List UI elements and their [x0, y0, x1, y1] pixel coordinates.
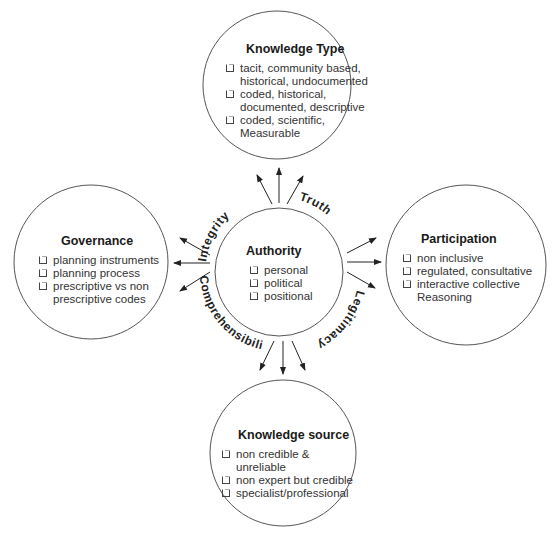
checkbox-icon: [39, 269, 47, 277]
checkbox-icon: [250, 279, 258, 287]
checkbox-icon: [222, 450, 230, 458]
node-title: Knowledge Type: [226, 42, 376, 56]
checkbox-icon: [222, 489, 230, 497]
node-list: planning instruments planning process pr…: [39, 254, 167, 306]
arrows-to-participation: [347, 238, 381, 288]
arrows-to-knowledge-source: [260, 341, 305, 374]
node-knowledge-source: Knowledge source non credible & unreliab…: [222, 428, 362, 500]
node-list: non credible & unreliable non expert but…: [222, 448, 362, 500]
list-item: non inclusive: [403, 252, 543, 265]
list-item: non expert but credible: [222, 474, 362, 487]
list-item: personal: [250, 264, 326, 277]
list-item: non credible & unreliable: [222, 448, 362, 474]
node-list: non inclusive regulated, consultative in…: [403, 252, 543, 304]
list-item: coded, scientific, Measurable: [226, 114, 376, 140]
list-item: coded, historical, documented, descripti…: [226, 88, 376, 114]
checkbox-icon: [226, 90, 234, 98]
node-knowledge-type: Knowledge Type tacit, community based, h…: [226, 42, 376, 140]
checkbox-icon: [403, 254, 411, 262]
node-governance: Governance planning instruments planning…: [39, 234, 167, 306]
checkbox-icon: [39, 282, 47, 290]
node-list: tacit, community based, historical, undo…: [226, 62, 376, 140]
checkbox-icon: [226, 116, 234, 124]
list-item: specialist/professional: [222, 487, 362, 500]
list-item: tacit, community based, historical, undo…: [226, 62, 376, 88]
arrows-to-knowledge-type: [257, 168, 303, 204]
ring-label-truth: Truth: [298, 189, 335, 217]
checkbox-icon: [226, 64, 234, 72]
checkbox-icon: [222, 476, 230, 484]
checkbox-icon: [250, 266, 258, 274]
list-item: political: [250, 277, 326, 290]
node-title: Governance: [39, 234, 167, 248]
node-title: Participation: [403, 232, 543, 246]
checkbox-icon: [39, 256, 47, 264]
list-item: planning instruments: [39, 254, 167, 267]
node-title: Knowledge source: [222, 428, 362, 442]
checkbox-icon: [250, 292, 258, 300]
node-authority: Authority personal political positional: [246, 244, 326, 303]
checkbox-icon: [403, 280, 411, 288]
list-item: planning process: [39, 267, 167, 280]
checkbox-icon: [403, 267, 411, 275]
list-item: interactive collective Reasoning: [403, 278, 543, 304]
node-participation: Participation non inclusive regulated, c…: [403, 232, 543, 304]
node-title: Authority: [246, 244, 326, 258]
list-item: positional: [250, 290, 326, 303]
list-item: regulated, consultative: [403, 265, 543, 278]
list-item: prescriptive vs non prescriptive codes: [39, 280, 167, 306]
node-list: personal political positional: [250, 264, 326, 303]
